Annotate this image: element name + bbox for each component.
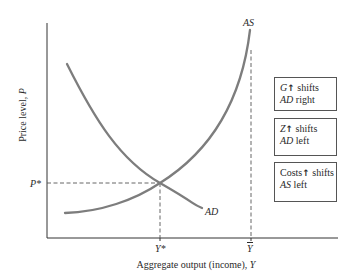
- y-bar-label: Y: [247, 243, 253, 254]
- as-label: AS: [243, 17, 254, 28]
- box-line-2: AD left: [280, 135, 336, 147]
- ad-label: AD: [205, 206, 218, 217]
- box-line-1: Z↑ shifts: [280, 123, 336, 135]
- y-axis-title-text: Price level,: [17, 94, 28, 141]
- x-axis-title: Aggregate output (income), Y: [137, 259, 256, 270]
- y-star-label: Y*: [155, 243, 166, 254]
- box-text: left: [293, 135, 309, 146]
- box-var: Costs: [280, 167, 302, 178]
- box-var: AD: [280, 94, 293, 105]
- annotation-box-z-shift: Z↑ shifts AD left: [274, 118, 337, 156]
- x-axis-title-text: Aggregate output (income),: [137, 259, 250, 270]
- box-line-2: AD right: [280, 94, 336, 106]
- y-bar-symbol: Y: [247, 243, 253, 254]
- ad-curve: [67, 64, 202, 208]
- annotation-box-g-shift: G↑ shifts AD right: [274, 77, 337, 111]
- up-arrow-icon: ↑: [287, 83, 295, 93]
- as-curve: [65, 30, 250, 213]
- box-text: shifts: [310, 167, 334, 178]
- box-text: shifts: [295, 82, 319, 93]
- y-axis-title-var: P: [17, 88, 28, 94]
- box-line-2: AS left: [280, 179, 336, 191]
- box-line-1: G↑ shifts: [280, 82, 336, 94]
- x-axis-title-var: Y: [250, 259, 256, 270]
- ad-as-diagram: AS AD P* Y* Y Price level, P Aggregate o…: [0, 0, 358, 277]
- box-text: right: [293, 94, 314, 105]
- box-text: shifts: [293, 123, 317, 134]
- box-var: AD: [280, 135, 293, 146]
- y-axis-title: Price level, P: [17, 88, 28, 142]
- p-star-label: P*: [30, 178, 41, 189]
- up-arrow-icon: ↑: [302, 168, 310, 178]
- annotation-box-costs-shift: Costs↑ shifts AS left: [274, 162, 337, 202]
- up-arrow-icon: ↑: [286, 124, 294, 134]
- box-var: AS: [280, 179, 291, 190]
- box-text: left: [291, 179, 307, 190]
- box-line-1: Costs↑ shifts: [280, 167, 336, 179]
